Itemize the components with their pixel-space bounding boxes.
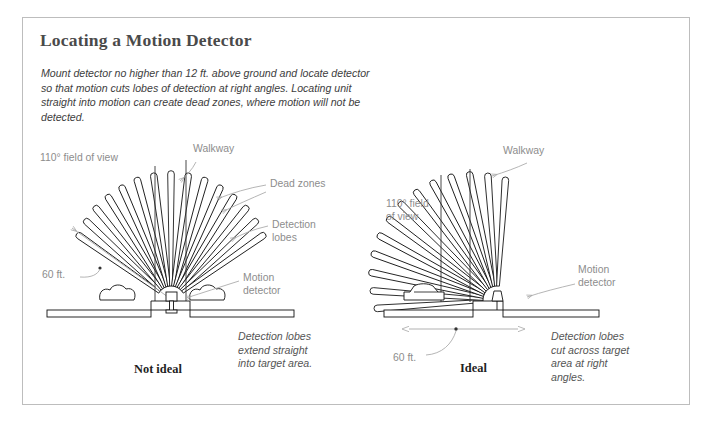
right-caption-italic: Detection lobes cut across target area a… [551, 330, 629, 384]
left-detection-lobes-label: Detection lobes [272, 219, 316, 245]
right-motion-detector-label: Motion detector [578, 264, 616, 290]
diagram-page: Locating a Motion Detector Mount detecto… [0, 0, 713, 432]
left-fov-label: 110° field of view [40, 152, 118, 165]
left-caption-bold: Not ideal [134, 362, 182, 377]
right-caption-bold: Ideal [460, 361, 487, 376]
left-dead-zones-label: Dead zones [270, 178, 325, 191]
left-walkway-label: Walkway [193, 143, 234, 156]
intro-paragraph: Mount detector no higher than 12 ft. abo… [41, 66, 371, 124]
right-range-label: 60 ft. [393, 352, 416, 365]
right-walkway-label: Walkway [503, 145, 544, 158]
left-range-label: 60 ft. [42, 269, 65, 282]
right-fov-label: 110° field of view [386, 198, 429, 224]
left-motion-detector-label: Motion detector [243, 272, 281, 298]
left-caption-italic: Detection lobes extend straight into tar… [238, 330, 312, 371]
page-title: Locating a Motion Detector [40, 30, 252, 51]
